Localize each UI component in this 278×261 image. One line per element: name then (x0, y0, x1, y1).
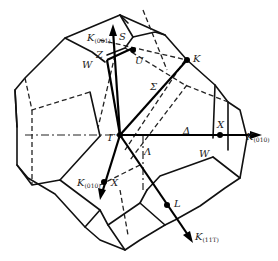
label-delta: Δ (182, 125, 190, 136)
arrow-head-k001 (109, 24, 117, 36)
label-sigma: Σ (149, 81, 158, 92)
label-x-front: X (110, 177, 119, 188)
label-x-right: X (216, 119, 225, 130)
label-k010-right: K(010) (245, 131, 270, 143)
point-k (184, 57, 190, 63)
label-w-top: W (82, 59, 93, 70)
label-l: L (173, 198, 181, 209)
point-l (164, 202, 170, 208)
point-x-front (101, 179, 107, 185)
label-k: K (192, 53, 201, 64)
arrow-head-k010-front (98, 188, 106, 200)
label-lambda: Λ (143, 146, 151, 157)
brillouin-zone-diagram: Γ Δ Σ Λ X X K L U W W Z S K(001) K(010) … (0, 0, 278, 261)
label-k010-front: K(010) (76, 177, 101, 189)
point-x-right (217, 132, 223, 138)
arrow-head-k11-1 (183, 231, 193, 243)
label-u: U (135, 55, 144, 66)
point-gamma (117, 132, 123, 138)
label-gamma: Γ (107, 132, 116, 143)
label-w-right: W (199, 148, 210, 159)
label-k001: K(001) (86, 32, 111, 44)
label-s: S (119, 31, 126, 42)
arrows (98, 24, 262, 243)
label-z: Z (95, 49, 104, 60)
hidden-edges (25, 10, 228, 235)
point-u (130, 47, 136, 53)
label-k11-1: K(11T) (194, 231, 219, 243)
